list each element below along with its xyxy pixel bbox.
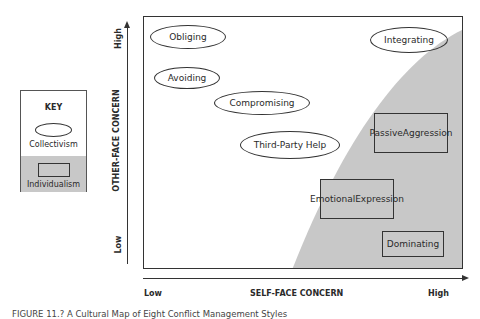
x-axis-line	[143, 278, 464, 279]
key-individualism-label: Individualism	[21, 180, 86, 189]
x-axis-arrow-icon	[462, 275, 469, 281]
style-integrating: Integrating	[370, 27, 448, 53]
plot-area: Obliging Avoiding Compromising Third-Par…	[143, 16, 463, 269]
style-obliging: Obliging	[150, 25, 226, 49]
x-axis-title: SELF-FACE CONCERN	[250, 289, 343, 298]
rectangle-icon	[38, 163, 70, 177]
style-dominating: Dominating	[382, 231, 444, 257]
style-compromising: Compromising	[214, 91, 310, 115]
style-passive-aggression: Passive Aggression	[374, 113, 448, 153]
legend-key: KEY Collectivism Individualism	[20, 90, 87, 192]
figure-caption: FIGURE 11.? A Cultural Map of Eight Conf…	[12, 309, 287, 319]
style-emotional-expression: Emotional Expression	[320, 179, 394, 219]
y-axis-high-label: High	[114, 19, 123, 59]
key-title: KEY	[21, 103, 86, 112]
style-third-party-help: Third-Party Help	[240, 131, 340, 159]
passive-aggression-line2: Aggression	[403, 127, 453, 139]
key-collectivism-label: Collectivism	[21, 140, 86, 149]
x-axis-low-label: Low	[144, 289, 162, 298]
y-axis-arrow-icon	[124, 21, 130, 28]
emotional-expression-line1: Emotional	[310, 193, 355, 205]
ellipse-icon	[35, 123, 72, 137]
passive-aggression-line1: Passive	[370, 127, 403, 139]
style-avoiding: Avoiding	[154, 67, 220, 89]
y-axis-title: OTHER-FACE CONCERN	[112, 81, 121, 201]
key-individualism-area: Individualism	[21, 156, 86, 192]
x-axis-high-label: High	[428, 289, 449, 298]
y-axis-low-label: Low	[114, 225, 123, 265]
y-axis-line	[127, 26, 128, 264]
emotional-expression-line2: Expression	[355, 193, 404, 205]
